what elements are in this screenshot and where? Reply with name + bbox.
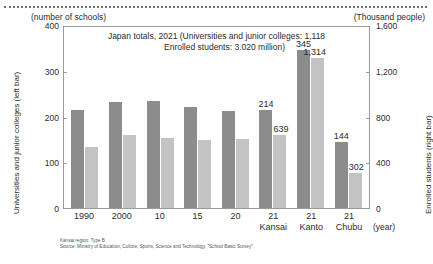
x-tick-year: 21 <box>344 211 354 221</box>
bar-students: 1,314 <box>311 58 324 208</box>
x-tick-label: 21Kanto <box>292 211 330 241</box>
bar-value-label: 144 <box>334 131 349 141</box>
y-tick-label-right: 1,600 <box>376 21 410 31</box>
y-tick-label-left: 100 <box>29 158 59 168</box>
x-tick-year: 15 <box>193 211 203 221</box>
bar-group: 3451,314 <box>292 27 330 208</box>
x-tick-region: Kansai <box>254 222 292 233</box>
footnotes: Kansai region: Type B Source: Ministry o… <box>60 238 253 250</box>
y-tick-mark-left <box>63 163 67 164</box>
y-tick-label-right: 800 <box>376 113 410 123</box>
y-tick-label-right: 400 <box>376 158 410 168</box>
x-tick-year: 21 <box>306 211 316 221</box>
x-tick-region: Chubu <box>330 222 368 233</box>
bar-group: 214639 <box>254 27 292 208</box>
bar-students <box>236 139 249 208</box>
bar-students <box>198 140 211 208</box>
bar-schools: 345 <box>297 50 310 208</box>
y-tick-mark-right <box>366 118 370 119</box>
y-axis-title-left: Universities and junior colleges (left b… <box>12 72 21 214</box>
y-tick-label-right: 1,200 <box>376 67 410 77</box>
x-tick-year: 2000 <box>112 211 132 221</box>
y-tick-mark-left <box>63 72 67 73</box>
x-tick-label: 21Chubu <box>330 211 368 241</box>
bar-group <box>217 27 255 208</box>
y-tick-mark-right <box>366 72 370 73</box>
bar-group: 144302 <box>329 27 367 208</box>
bar-series-container: 2146393451,314144302 <box>64 27 369 208</box>
bar-schools <box>222 111 235 208</box>
footnote-source: Source: Ministry of Education, Culture, … <box>60 244 253 250</box>
bar-value-label: 1,314 <box>304 47 327 57</box>
y-tick-label-right: 0 <box>376 204 410 214</box>
bar-students <box>123 135 136 208</box>
bar-students <box>85 147 98 208</box>
x-tick-label: 15 <box>179 211 217 241</box>
x-tick-year: 20 <box>230 211 240 221</box>
bar-group <box>66 27 104 208</box>
x-tick-label: 1990 <box>65 211 103 241</box>
x-tick-year: 1990 <box>74 211 94 221</box>
bar-group <box>104 27 142 208</box>
plot-area: Japan totals, 2021 (Universities and jun… <box>63 26 370 209</box>
y-tick-label-left: 200 <box>29 113 59 123</box>
y-tick-label-left: 400 <box>29 21 59 31</box>
y-tick-mark-right <box>366 163 370 164</box>
bar-schools <box>184 107 197 208</box>
bar-schools <box>147 101 160 208</box>
bar-schools: 214 <box>259 110 272 208</box>
bar-students: 302 <box>349 173 362 208</box>
bar-value-label: 639 <box>273 124 288 134</box>
x-tick-label: 21Kansai <box>254 211 292 241</box>
bar-schools <box>109 102 122 208</box>
x-axis-unit-label: (year) <box>373 222 395 232</box>
x-tick-label: 10 <box>141 211 179 241</box>
y-tick-mark-left <box>63 118 67 119</box>
bar-schools <box>71 110 84 208</box>
x-tick-year: 21 <box>268 211 278 221</box>
x-tick-label: 2000 <box>103 211 141 241</box>
bar-schools: 144 <box>335 142 348 208</box>
bar-students <box>161 138 174 208</box>
x-tick-label: 20 <box>217 211 255 241</box>
bar-value-label: 302 <box>349 162 364 172</box>
top-dotted-divider <box>4 6 427 8</box>
bar-value-label: 214 <box>258 99 273 109</box>
bar-students: 639 <box>273 135 286 208</box>
bar-group <box>141 27 179 208</box>
y-tick-label-left: 300 <box>29 67 59 77</box>
x-tick-year: 10 <box>155 211 165 221</box>
y-axis-title-right: Enrolled students (right bar) <box>424 115 433 214</box>
y-tick-label-left: 0 <box>29 204 59 214</box>
bar-group <box>179 27 217 208</box>
x-tick-region: Kanto <box>292 222 330 233</box>
x-axis-labels: 1990200010152021Kansai21Kanto21Chubu <box>63 211 370 241</box>
